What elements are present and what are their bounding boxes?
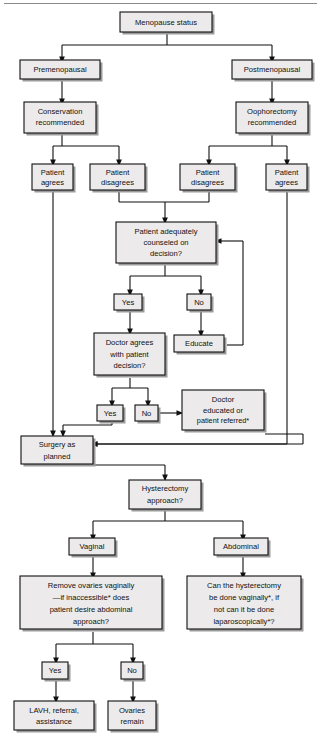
node-premenopausal[interactable]: Premenopausal xyxy=(20,60,103,82)
node-educate[interactable]: Educate xyxy=(174,335,227,355)
node-label: Vaginal xyxy=(80,542,105,551)
node-label-line2: with patient xyxy=(109,350,149,359)
node-label-line2: assistance xyxy=(36,717,72,726)
node-surgery-as-planned[interactable]: Surgery as planned xyxy=(21,436,96,467)
node-hysterectomy-approach[interactable]: Hysterectomy approach? xyxy=(129,480,204,512)
node-label-line2: recommended xyxy=(248,118,297,127)
node-label-line1: Doctor xyxy=(212,395,235,404)
node-can-hysterectomy-be-done-vaginally[interactable]: Can the hysterectomy be done vaginally*,… xyxy=(187,576,304,632)
node-label-line2: counseled on xyxy=(143,238,188,247)
flowchart-canvas: Menopause status Premenopausal Postmenop… xyxy=(0,0,321,748)
node-label-line2: —if inaccessible* does xyxy=(53,593,130,602)
node-label: Postmenopausal xyxy=(244,65,301,74)
node-label-line1: Patient xyxy=(106,168,131,177)
node-doctor-educated-or-patient-referred[interactable]: Doctor educated or patient referred* xyxy=(182,390,267,433)
node-abdominal[interactable]: Abdominal xyxy=(214,538,271,558)
node-label: Yes xyxy=(49,666,62,675)
node-label-line2: remain xyxy=(120,717,143,726)
node-label-line3: patient referred* xyxy=(197,416,249,425)
node-label-line1: Conservation xyxy=(38,107,83,116)
node-ovaries-remain[interactable]: Ovaries remain xyxy=(108,701,159,733)
node-label-line3: patient desire abdominal xyxy=(50,605,133,614)
node-label-line4: laparoscopically*? xyxy=(213,617,274,626)
node-label-line1: Remove ovaries vaginally xyxy=(48,581,135,590)
node-vaginal[interactable]: Vaginal xyxy=(69,538,118,558)
node-label-line1: Patient adequately xyxy=(135,227,198,236)
node-doctor-agrees-with-patient-decision[interactable]: Doctor agrees with patient decision? xyxy=(94,333,168,378)
node-label-line2: disagrees xyxy=(101,178,134,187)
node-lavh-referral-assistance[interactable]: LAVH, referral, assistance xyxy=(14,701,97,733)
node-label: Abdominal xyxy=(223,542,259,551)
node-label-line3: decision? xyxy=(113,361,145,370)
node-label-line2: educated or xyxy=(203,406,244,415)
node-label: Yes xyxy=(104,409,117,418)
node-label: Educate xyxy=(185,339,213,348)
node-label-line1: Ovaries xyxy=(119,706,145,715)
node-label-line2: approach? xyxy=(147,496,183,505)
node-postmenopausal[interactable]: Postmenopausal xyxy=(232,60,315,82)
node-label: Premenopausal xyxy=(33,65,87,74)
node-label-line3: not can it be done xyxy=(214,605,274,614)
node-label-line2: recommended xyxy=(36,118,85,127)
node-patient-agrees-left[interactable]: Patient agrees xyxy=(32,164,76,193)
node-conservation-recommended[interactable]: Conservation recommended xyxy=(24,102,99,136)
node-label-line1: Patient xyxy=(275,168,300,177)
node-patient-disagrees-right[interactable]: Patient disagrees xyxy=(180,164,238,193)
node-ovaries-no[interactable]: No xyxy=(121,662,146,682)
node-label-line1: Doctor agrees xyxy=(106,338,154,347)
node-doctor-no[interactable]: No xyxy=(135,405,161,424)
node-counseled-yes[interactable]: Yes xyxy=(114,294,145,313)
node-label: No xyxy=(142,409,152,418)
node-patient-agrees-right[interactable]: Patient agrees xyxy=(266,164,310,193)
node-doctor-yes[interactable]: Yes xyxy=(97,405,126,424)
node-label-line2: agrees xyxy=(275,178,298,187)
node-label-line1: Hysterectomy xyxy=(142,484,189,493)
node-label: Menopause status xyxy=(135,18,197,27)
node-label-line2: be done vaginally*, if xyxy=(209,593,280,602)
node-label-line1: Surgery as xyxy=(39,440,76,449)
node-patient-adequately-counseled[interactable]: Patient adequately counseled on decision… xyxy=(116,222,219,266)
node-label-line3: decision? xyxy=(150,249,182,258)
node-label: Yes xyxy=(122,298,135,307)
node-label-line2: agrees xyxy=(41,178,64,187)
node-counseled-no[interactable]: No xyxy=(187,294,214,313)
node-label: No xyxy=(194,298,204,307)
node-ovaries-yes[interactable]: Yes xyxy=(42,662,71,682)
node-label-line4: approach? xyxy=(73,617,109,626)
node-label-line1: Oophorectomy xyxy=(247,107,297,116)
node-menopause-status[interactable]: Menopause status xyxy=(120,12,215,35)
node-label-line1: Patient xyxy=(41,168,66,177)
node-label-line1: Can the hysterectomy xyxy=(207,581,281,590)
node-remove-ovaries-vaginally[interactable]: Remove ovaries vaginally —if inaccessibl… xyxy=(20,576,165,632)
node-label: No xyxy=(127,666,137,675)
node-label-line1: LAVH, referral, xyxy=(29,706,79,715)
node-label-line2: disagrees xyxy=(191,178,224,187)
node-patient-disagrees-left[interactable]: Patient disagrees xyxy=(90,164,148,193)
node-label-line2: planned xyxy=(43,452,70,461)
node-oophorectomy-recommended[interactable]: Oophorectomy recommended xyxy=(236,102,311,136)
node-label-line1: Patient xyxy=(196,168,221,177)
